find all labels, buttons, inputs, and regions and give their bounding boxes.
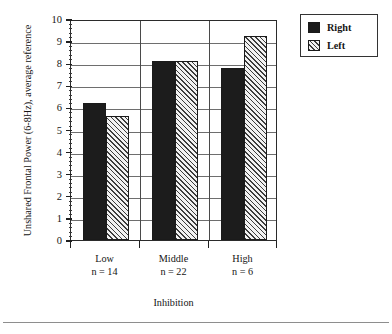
y-minor-tick xyxy=(69,103,73,104)
bar-high-right[interactable] xyxy=(221,68,244,240)
legend-item-left[interactable]: Left xyxy=(308,37,377,53)
y-minor-tick xyxy=(69,90,73,91)
x-axis xyxy=(70,241,277,249)
y-tick-label-3: 3 xyxy=(57,169,62,180)
legend: RightLeft xyxy=(300,14,378,57)
y-minor-tick xyxy=(69,214,73,215)
bar-middle-left[interactable] xyxy=(175,61,198,240)
legend-item-right[interactable]: Right xyxy=(308,19,377,35)
y-tick-label-7: 7 xyxy=(57,81,62,92)
y-minor-tick xyxy=(69,28,73,29)
y-minor-tick xyxy=(69,50,73,51)
y-minor-tick xyxy=(69,55,73,56)
y-minor-tick xyxy=(69,148,73,149)
category-sample-size: n = 22 xyxy=(139,265,208,278)
y-minor-tick xyxy=(69,37,73,38)
category-label-low: Lown = 14 xyxy=(70,252,139,278)
category-sample-size: n = 6 xyxy=(208,265,277,278)
y-minor-tick xyxy=(69,232,73,233)
bar-low-left[interactable] xyxy=(106,116,129,240)
y-minor-tick xyxy=(69,24,73,25)
y-minor-tick xyxy=(69,59,73,60)
y-tick-7 xyxy=(66,86,72,87)
y-minor-tick xyxy=(69,121,73,122)
x-tick-3 xyxy=(276,241,277,248)
y-minor-tick xyxy=(69,227,73,228)
x-tick-2 xyxy=(208,241,209,248)
legend-swatch-left xyxy=(308,40,320,51)
category-separator-1 xyxy=(140,21,141,240)
y-tick-label-0: 0 xyxy=(57,236,62,247)
y-minor-tick xyxy=(69,205,73,206)
category-separator-2 xyxy=(209,21,210,240)
category-sample-size: n = 14 xyxy=(70,265,139,278)
y-tick-label-8: 8 xyxy=(57,59,62,70)
y-tick-3 xyxy=(66,174,72,175)
x-tick-1 xyxy=(139,241,140,248)
y-minor-tick xyxy=(69,73,73,74)
category-name: Middle xyxy=(159,253,188,264)
y-minor-tick xyxy=(69,201,73,202)
y-minor-tick xyxy=(69,187,73,188)
y-tick-6 xyxy=(66,108,72,109)
y-minor-tick xyxy=(69,139,73,140)
y-minor-tick xyxy=(69,99,73,100)
y-tick-1 xyxy=(66,218,72,219)
y-minor-tick xyxy=(69,161,73,162)
y-minor-tick xyxy=(69,192,73,193)
y-tick-label-6: 6 xyxy=(57,103,62,114)
y-tick-label-10: 10 xyxy=(52,15,63,26)
plot-area xyxy=(70,20,277,241)
category-name: High xyxy=(232,253,252,264)
y-tick-8 xyxy=(66,64,72,65)
y-tick-label-4: 4 xyxy=(57,147,62,158)
y-minor-tick xyxy=(69,157,73,158)
bar-low-right[interactable] xyxy=(83,103,106,240)
y-minor-tick xyxy=(69,134,73,135)
y-minor-tick xyxy=(69,46,73,47)
y-minor-tick xyxy=(69,126,73,127)
bar-high-left[interactable] xyxy=(244,36,267,240)
x-axis-title: Inhibition xyxy=(70,297,277,308)
footer-divider xyxy=(3,322,389,323)
y-minor-tick xyxy=(69,143,73,144)
y-tick-label-1: 1 xyxy=(57,214,62,225)
y-tick-4 xyxy=(66,152,72,153)
category-name: Low xyxy=(95,253,114,264)
y-minor-tick xyxy=(69,95,73,96)
y-minor-tick xyxy=(69,210,73,211)
y-minor-tick xyxy=(69,33,73,34)
y-minor-tick xyxy=(69,81,73,82)
y-tick-9 xyxy=(66,41,72,42)
y-minor-tick xyxy=(69,112,73,113)
legend-swatch-right xyxy=(308,22,320,33)
y-axis: 012345678910 xyxy=(70,20,71,241)
figure: Unshared Frontal Power (6-8Hz), average … xyxy=(0,0,392,334)
y-minor-tick xyxy=(69,236,73,237)
y-tick-label-2: 2 xyxy=(57,192,62,203)
y-axis-title: Unshared Frontal Power (6-8Hz), average … xyxy=(20,20,36,241)
y-tick-2 xyxy=(66,196,72,197)
y-tick-label-5: 5 xyxy=(57,125,62,136)
y-minor-tick xyxy=(69,68,73,69)
y-minor-tick xyxy=(69,170,73,171)
legend-label: Left xyxy=(327,40,345,51)
bar-middle-right[interactable] xyxy=(152,61,175,240)
y-tick-label-9: 9 xyxy=(57,37,62,48)
y-minor-tick xyxy=(69,77,73,78)
y-minor-tick xyxy=(69,183,73,184)
y-minor-tick xyxy=(69,117,73,118)
y-minor-tick xyxy=(69,165,73,166)
category-label-middle: Middlen = 22 xyxy=(139,252,208,278)
y-tick-10 xyxy=(66,19,72,20)
category-label-high: Highn = 6 xyxy=(208,252,277,278)
y-minor-tick xyxy=(69,179,73,180)
y-tick-5 xyxy=(66,130,72,131)
y-minor-tick xyxy=(69,223,73,224)
legend-label: Right xyxy=(327,22,351,33)
x-tick-0 xyxy=(70,241,71,248)
